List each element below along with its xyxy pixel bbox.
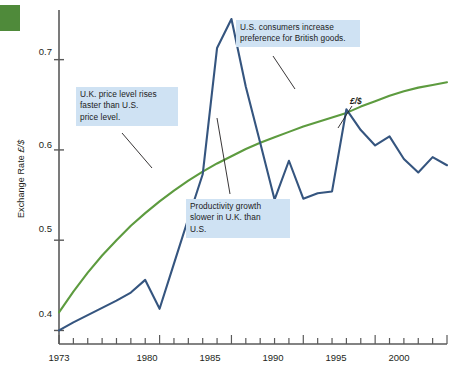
x-tick-marks bbox=[59, 335, 447, 344]
annotation-us-consumers-line2: preference for British goods. bbox=[240, 33, 356, 44]
plot-canvas bbox=[0, 0, 458, 380]
leader-line-productivity bbox=[217, 118, 230, 194]
annotation-uk-price-level: U.K. price level rises faster than U.S. … bbox=[76, 87, 178, 126]
series-label-gbp-usd: £/$ bbox=[350, 96, 362, 106]
axis-lines bbox=[59, 10, 447, 344]
annotation-productivity-line3: U.S. bbox=[190, 224, 286, 235]
annotation-productivity-line2: slower in U.K. than bbox=[190, 212, 286, 223]
annotation-us-consumers: U.S. consumers increase preference for B… bbox=[236, 20, 360, 47]
exchange-rate-line bbox=[59, 19, 447, 330]
leader-line-us-consumers bbox=[273, 56, 295, 89]
leader-line-series bbox=[338, 106, 352, 128]
annotation-us-consumers-line1: U.S. consumers increase bbox=[240, 22, 356, 33]
annotation-uk-price-level-line3: price level. bbox=[80, 112, 174, 123]
annotation-uk-price-level-line2: faster than U.S. bbox=[80, 100, 174, 111]
annotation-productivity-growth: Productivity growth slower in U.K. than … bbox=[186, 199, 290, 238]
figure-root: Exchange Rate £/$ 0.7 0.6 0.5 0.4 1973 1… bbox=[0, 0, 458, 380]
annotation-productivity-line1: Productivity growth bbox=[190, 201, 286, 212]
annotation-uk-price-level-line1: U.K. price level rises bbox=[80, 89, 174, 100]
leader-line-uk-price bbox=[122, 133, 152, 168]
